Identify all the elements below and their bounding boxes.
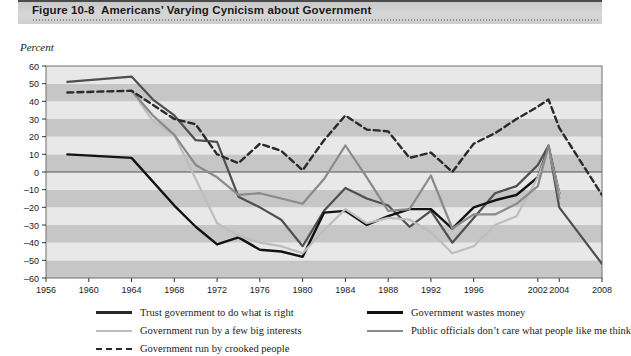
chart-legend: Trust government to do what is rightGove… [0, 300, 620, 356]
y-tick-label: –30 [24, 221, 39, 231]
x-tick-label: 2002 [528, 285, 548, 295]
x-tick-label: 1956 [36, 285, 56, 295]
y-tick-label: –60 [24, 274, 39, 284]
legend-item: Public officials don’t care what people … [367, 322, 631, 339]
x-tick-label: 1968 [164, 285, 184, 295]
grid-band [46, 243, 602, 261]
legend-item: Trust government to do what is right [96, 304, 302, 321]
legend-item: Government wastes money [367, 304, 631, 321]
chart-plot-area: 6050403020100–10–20–30–40–50–60195619601… [0, 0, 620, 300]
x-tick-label: 1960 [79, 285, 99, 295]
legend-item-label: Public officials don’t care what people … [411, 325, 631, 336]
y-tick-label: 50 [29, 79, 39, 89]
y-tick-label: 30 [29, 115, 39, 125]
y-tick-label: –20 [24, 203, 39, 213]
grid-band [46, 225, 602, 243]
y-tick-label: –10 [24, 185, 39, 195]
legend-column-right: Government wastes moneyPublic officials … [367, 304, 631, 340]
legend-line-swatch [96, 344, 132, 354]
x-tick-label: 1976 [250, 285, 270, 295]
y-tick-label: –50 [24, 256, 39, 266]
x-axis: 1956196019641968197219761980198419881992… [36, 278, 612, 295]
grid-band [46, 84, 602, 102]
legend-line-swatch [367, 326, 403, 336]
y-tick-label: –40 [24, 238, 39, 248]
x-tick-label: 1980 [293, 285, 313, 295]
legend-item-label: Government wastes money [411, 307, 525, 318]
grid-band [46, 172, 602, 190]
x-tick-label: 2004 [549, 285, 569, 295]
y-tick-label: 0 [34, 168, 39, 178]
x-tick-label: 1964 [122, 285, 142, 295]
y-tick-label: 10 [29, 150, 39, 160]
legend-item: Government run by a few big interests [96, 322, 302, 339]
legend-item-label: Government run by a few big interests [140, 325, 302, 336]
line-chart: 6050403020100–10–20–30–40–50–60195619601… [0, 0, 620, 300]
grid-band [46, 119, 602, 137]
y-tick-label: 20 [29, 132, 39, 142]
legend-item-label: Government run by crooked people [140, 343, 289, 354]
grid-band [46, 66, 602, 84]
y-axis: 6050403020100–10–20–30–40–50–60 [24, 62, 46, 284]
grid-band [46, 101, 602, 119]
legend-line-swatch [96, 326, 132, 336]
legend-item: Government run by crooked people [96, 340, 302, 356]
x-tick-label: 2008 [592, 285, 612, 295]
x-tick-label: 1992 [421, 285, 441, 295]
x-tick-label: 1984 [335, 285, 355, 295]
legend-column-left: Trust government to do what is rightGove… [96, 304, 302, 356]
y-tick-label: 40 [29, 97, 39, 107]
x-tick-label: 1988 [378, 285, 398, 295]
y-tick-label: 60 [29, 62, 39, 72]
grid-band [46, 260, 602, 278]
x-tick-label: 1972 [207, 285, 227, 295]
legend-item-label: Trust government to do what is right [140, 307, 294, 318]
legend-line-swatch [367, 308, 403, 318]
legend-line-swatch [96, 308, 132, 318]
x-tick-label: 1996 [464, 285, 484, 295]
